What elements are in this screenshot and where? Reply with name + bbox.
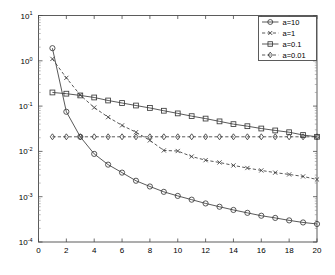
marker-x <box>120 123 124 127</box>
x-tick-label: 4 <box>92 246 97 255</box>
y-tick-label: 10-4 <box>19 237 33 247</box>
marker-x <box>64 76 68 80</box>
marker-x <box>106 115 110 119</box>
data-series-group <box>50 46 320 227</box>
legend-entry-label: a=1 <box>283 29 296 38</box>
y-axis-tick-labels: 10110010-110-210-310-4 <box>19 10 33 247</box>
x-tick-label: 12 <box>201 246 210 255</box>
series-a-0-01 <box>50 134 319 140</box>
x-tick-label: 18 <box>285 246 294 255</box>
y-tick-label: 100 <box>21 56 33 66</box>
x-tick-label: 16 <box>257 246 266 255</box>
chart-legend: a=10a=1a=0.1a=0.01 <box>259 17 317 61</box>
x-tick-label: 10 <box>173 246 182 255</box>
figure-canvas: 10110010-110-210-310-4 02468101214161820… <box>0 0 335 275</box>
series-a-0-1 <box>50 90 319 139</box>
legend-entry-label: a=0.01 <box>283 51 306 60</box>
x-tick-label: 0 <box>36 246 41 255</box>
chart-svg: 10110010-110-210-310-4 02468101214161820… <box>0 0 335 275</box>
marker-x <box>50 57 54 61</box>
x-tick-label: 2 <box>64 246 69 255</box>
series-a-1 <box>50 57 319 182</box>
marker-x <box>92 105 96 109</box>
legend-entry-label: a=0.1 <box>283 40 302 49</box>
series-line <box>52 59 317 180</box>
marker-x <box>190 154 194 158</box>
series-a-10 <box>50 46 320 227</box>
x-tick-label: 14 <box>229 246 238 255</box>
y-tick-label: 10-3 <box>19 192 33 202</box>
y-tick-label: 101 <box>21 10 33 20</box>
x-tick-label: 8 <box>148 246 153 255</box>
y-tick-label: 10-2 <box>19 146 33 156</box>
legend-entry-label: a=10 <box>283 18 300 27</box>
x-tick-label: 20 <box>313 246 322 255</box>
x-axis-tick-labels: 02468101214161820 <box>36 246 322 255</box>
y-tick-label: 10-1 <box>19 101 33 111</box>
x-tick-label: 6 <box>120 246 125 255</box>
